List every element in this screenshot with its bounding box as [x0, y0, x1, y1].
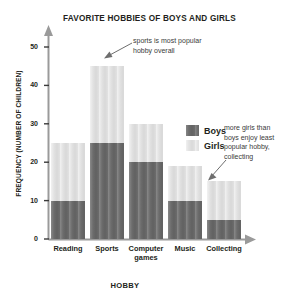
bar-segment-boys-music [168, 201, 202, 239]
annotation-collecting: more girls than boys enjoy least popular… [224, 123, 298, 161]
bar-computer-games[interactable] [129, 124, 163, 239]
legend-swatch-girls-icon [186, 140, 199, 151]
bar-segment-boys-sports [90, 143, 124, 239]
annotation-collecting-line2: boys enjoy least [224, 133, 298, 143]
annotation-collecting-line4: collecting [224, 152, 298, 162]
legend-item-girls[interactable]: Girls [186, 140, 226, 151]
bar-collecting[interactable] [207, 181, 241, 239]
legend-label-boys: Boys [204, 126, 226, 136]
legend-swatch-boys-icon [186, 125, 199, 136]
chart-container: FAVORITE HOBBIES OF BOYS AND GIRLS 0 10 … [0, 0, 299, 302]
bar-segment-boys-computer-games [129, 162, 163, 239]
bar-segment-boys-collecting [207, 220, 241, 239]
bar-segment-girls-sports [90, 66, 124, 143]
bar-segment-girls-computer-games [129, 124, 163, 162]
x-category-computer-games: Computer games [121, 244, 171, 262]
legend-item-boys[interactable]: Boys [186, 125, 226, 136]
y-tick-50: 50 [10, 43, 38, 50]
bar-segment-girls-collecting [207, 181, 241, 219]
bar-segment-boys-reading [51, 201, 85, 239]
x-category-collecting-line1: Collecting [198, 244, 250, 253]
annotation-sports-line2: hobby overall [133, 46, 253, 56]
annotation-collecting-line3: popular hobby, [224, 142, 298, 152]
x-category-computer-games-line2: games [121, 253, 171, 262]
annotation-sports-line1: sports is most popular [133, 36, 253, 46]
x-axis-title: HOBBY [0, 281, 250, 290]
y-tick-0: 0 [10, 235, 38, 242]
annotation-sports: sports is most popular hobby overall [133, 36, 253, 55]
bar-segment-girls-reading [51, 143, 85, 201]
x-category-collecting: Collecting [198, 244, 250, 253]
bar-music[interactable] [168, 166, 202, 239]
legend-label-girls: Girls [204, 141, 225, 151]
x-category-computer-games-line1: Computer [121, 244, 171, 253]
annotation-collecting-line1: more girls than [224, 123, 298, 133]
chart-legend: Boys Girls [186, 125, 226, 155]
bar-reading[interactable] [51, 143, 85, 239]
y-axis-title: FREQUENCY (NUMBER OF CHILDREN) [15, 54, 22, 214]
bar-sports[interactable] [90, 66, 124, 239]
bar-segment-girls-music [168, 166, 202, 201]
